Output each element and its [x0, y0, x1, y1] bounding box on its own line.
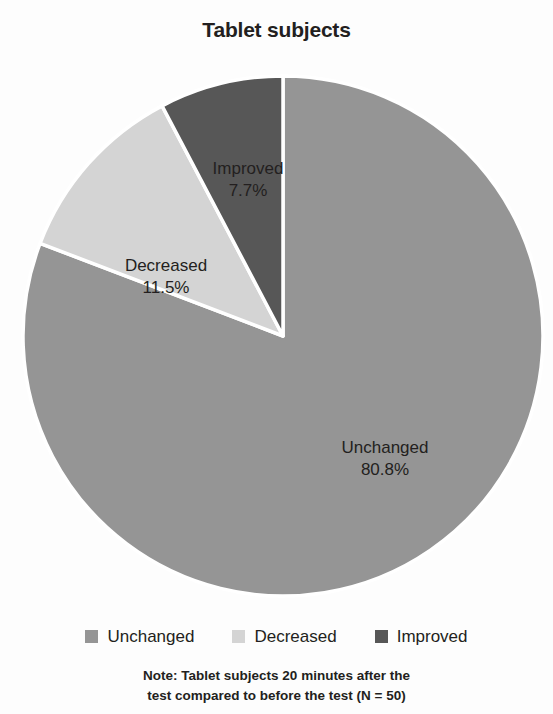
legend-swatch-unchanged	[85, 630, 98, 643]
chart-legend: Unchanged Decreased Improved	[0, 628, 553, 645]
chart-note: Note: Tablet subjects 20 minutes after t…	[0, 666, 553, 705]
chart-note-line-1: Note: Tablet subjects 20 minutes after t…	[0, 666, 553, 686]
legend-label-decreased: Decreased	[254, 628, 336, 645]
legend-item-unchanged: Unchanged	[85, 628, 194, 645]
pie-chart-figure: Tablet subjects Unchanged 80.8% Decrease…	[0, 0, 553, 714]
legend-label-unchanged: Unchanged	[107, 628, 194, 645]
pie-svg	[0, 62, 553, 612]
legend-swatch-decreased	[232, 630, 245, 643]
legend-label-improved: Improved	[397, 628, 468, 645]
chart-note-line-2: test compared to before the test (N = 50…	[0, 686, 553, 706]
legend-item-improved: Improved	[375, 628, 468, 645]
chart-title: Tablet subjects	[0, 18, 553, 42]
pie-slices	[23, 76, 543, 596]
legend-swatch-improved	[375, 630, 388, 643]
legend-item-decreased: Decreased	[232, 628, 336, 645]
pie-plot-area: Unchanged 80.8% Decreased 11.5% Improved…	[0, 62, 553, 612]
